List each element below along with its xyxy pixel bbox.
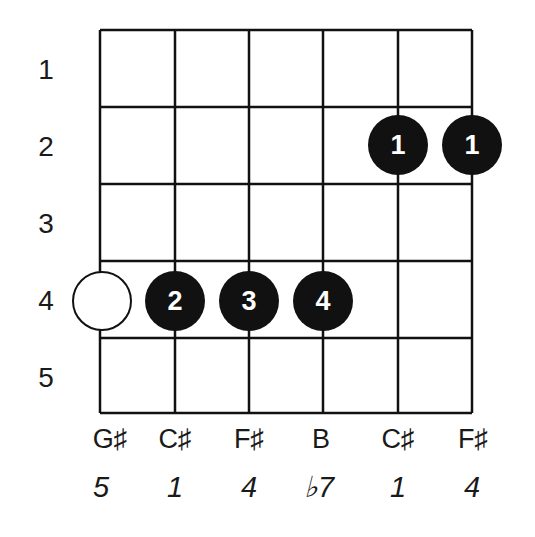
string-note-3: F♯ [224,426,274,453]
string-interval-4: ♭7 [294,473,344,502]
fret-label-4: 4 [31,287,61,315]
finger-number: 1 [464,130,479,161]
finger-dot: 2 [145,271,205,331]
string-interval-5: 1 [373,473,423,502]
finger-number: 1 [390,130,405,161]
string-interval-3: 4 [224,473,274,502]
string-note-6: F♯ [448,426,498,453]
string-note-5: C♯ [373,426,423,453]
finger-dot: 1 [442,115,502,175]
chord-diagram: 1 2 3 4 5 2 3 4 1 1 G♯ C♯ F♯ B C♯ F♯ 5 1… [0,0,535,537]
fret-label-2: 2 [31,133,61,161]
string-interval-1: 5 [76,473,126,502]
string-interval-2: 1 [150,473,200,502]
finger-dot: 1 [368,115,428,175]
string-note-4: B [296,426,346,453]
finger-number: 4 [315,286,330,317]
finger-dot: 4 [293,271,353,331]
finger-number: 2 [167,286,182,317]
finger-dot: 3 [219,271,279,331]
fret-label-5: 5 [31,364,61,392]
finger-number: 3 [241,286,256,317]
open-circle-root-marker [72,271,132,331]
fretboard-grid [0,0,535,537]
fret-label-1: 1 [31,56,61,84]
string-note-1: G♯ [85,426,135,453]
fret-label-3: 3 [31,210,61,238]
string-interval-6: 4 [447,473,497,502]
string-note-2: C♯ [150,426,200,453]
